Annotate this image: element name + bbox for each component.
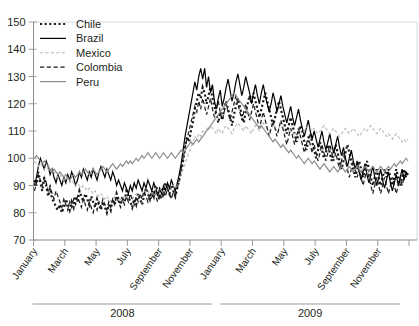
y-tick-label: 90 <box>13 180 25 192</box>
series-line-peru <box>34 93 408 180</box>
year-group-label: 2008 <box>110 307 134 319</box>
y-tick-label: 110 <box>8 125 26 137</box>
x-tick-label: November <box>348 245 384 290</box>
y-tick-label: 80 <box>13 207 25 219</box>
x-tick-label: January <box>197 246 226 281</box>
legend-label-mexico: Mexico <box>76 47 111 59</box>
x-tick-label: November <box>160 245 196 290</box>
y-tick-label: 70 <box>13 234 25 246</box>
legend-label-brazil: Brazil <box>76 32 104 44</box>
year-group-label: 2009 <box>298 307 322 319</box>
chart-canvas: 708090100110120130140150JanuaryMarchMayJ… <box>0 0 419 326</box>
x-tick-label: May <box>82 246 102 268</box>
legend-label-peru: Peru <box>76 76 99 88</box>
y-tick-label: 150 <box>7 16 25 28</box>
y-tick-label: 100 <box>7 152 25 164</box>
line-chart-figure: 708090100110120130140150JanuaryMarchMayJ… <box>0 0 419 326</box>
legend-label-colombia: Colombia <box>76 61 123 73</box>
legend-label-chile: Chile <box>76 18 101 30</box>
x-tick-label: March <box>233 246 258 275</box>
x-tick-label: May <box>270 246 290 268</box>
x-tick-label: July <box>114 246 133 267</box>
y-tick-label: 140 <box>7 43 25 55</box>
y-tick-label: 120 <box>7 98 25 110</box>
series-line-chile <box>34 87 408 212</box>
series-line-mexico <box>34 123 408 202</box>
x-tick-label: July <box>302 246 321 267</box>
x-tick-label: January <box>10 246 39 281</box>
y-tick-label: 130 <box>7 71 25 83</box>
x-tick-label: March <box>45 246 70 275</box>
